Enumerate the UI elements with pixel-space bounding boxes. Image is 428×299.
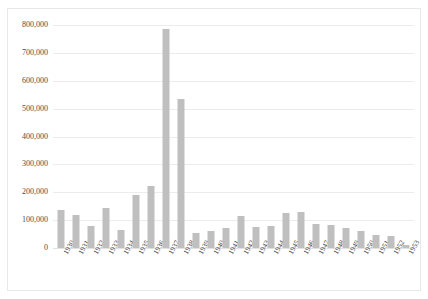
bar-slot: 1933 [98,25,113,248]
bar-slot: 1942 [234,25,249,248]
bar-slot: 1951 [369,25,384,248]
bar-slot: 1950 [354,25,369,248]
bar-slot: 1937 [158,25,173,248]
bar[interactable] [283,213,290,248]
bar[interactable] [57,210,64,248]
bar[interactable] [162,29,169,248]
bar-slot: 1948 [324,25,339,248]
bar[interactable] [72,215,79,248]
bar-slot: 1944 [264,25,279,248]
bars-group: 1930193119321933193419351936193719381939… [53,25,414,248]
bar[interactable] [298,212,305,248]
y-axis-tick-label: 300,000 [22,160,48,168]
y-axis-tick-label: 0 [44,244,48,252]
bar[interactable] [102,208,109,248]
bar[interactable] [117,230,124,248]
bar-slot: 1943 [249,25,264,248]
bar-slot: 1938 [173,25,188,248]
chart-container: 0100,000200,000300,000400,000500,000600,… [7,8,421,291]
bar-slot: 1939 [188,25,203,248]
y-axis-tick-label: 400,000 [22,133,48,141]
bar-slot: 1953 [399,25,414,248]
y-axis-tick-label: 200,000 [22,188,48,196]
bar-slot: 1930 [53,25,68,248]
bar-slot: 1931 [68,25,83,248]
bar[interactable] [177,99,184,248]
bar-slot: 1935 [128,25,143,248]
y-axis-tick-label: 600,000 [22,77,48,85]
bar-slot: 1934 [113,25,128,248]
plot-wrapper: 0100,000200,000300,000400,000500,000600,… [8,9,420,290]
x-axis-tick-label: 1953 [407,239,421,256]
bar[interactable] [132,195,139,248]
y-axis-tick-label: 800,000 [22,21,48,29]
bar[interactable] [87,226,94,248]
bar-slot: 1952 [384,25,399,248]
bar-slot: 1945 [279,25,294,248]
bar-slot: 1936 [143,25,158,248]
bar-slot: 1946 [294,25,309,248]
bar-slot: 1940 [203,25,218,248]
bar[interactable] [238,216,245,248]
bar[interactable] [147,186,154,248]
plot-area: 0100,000200,000300,000400,000500,000600,… [53,25,414,248]
bar-slot: 1932 [83,25,98,248]
bar-slot: 1947 [309,25,324,248]
y-axis-tick-label: 700,000 [22,49,48,57]
bar-slot: 1949 [339,25,354,248]
y-axis-tick-label: 100,000 [22,216,48,224]
bar-slot: 1941 [218,25,233,248]
y-axis-tick-label: 500,000 [22,105,48,113]
